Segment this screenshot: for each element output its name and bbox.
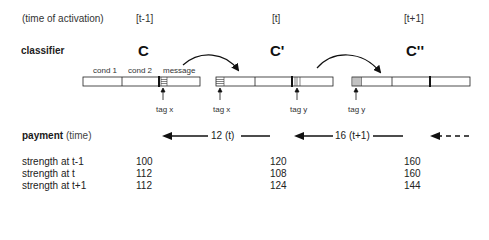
- strength-value: 100: [136, 156, 153, 167]
- payment-arrow-3-dashed: [430, 132, 470, 140]
- strength-row-label: strength at t+1: [22, 180, 86, 191]
- strength-value: 144: [404, 180, 421, 191]
- strength-value: 108: [270, 168, 287, 179]
- strength-row-label: strength at t: [22, 168, 75, 179]
- payment-label: payment (time): [22, 130, 91, 141]
- activation-arrow-c-to-c-prime: [183, 55, 238, 70]
- strength-value: 160: [404, 156, 421, 167]
- payment-amount-2: 16 (t+1): [333, 130, 372, 141]
- tag-label: tag y: [290, 105, 307, 114]
- classifier-bar-c-prime: [216, 76, 333, 87]
- strength-value: 120: [270, 156, 287, 167]
- activation-arrow-c-prime-to-c-double-prime: [317, 55, 380, 72]
- payment-label-suffix: (time): [63, 130, 91, 141]
- payment-label-bold: payment: [22, 130, 63, 141]
- payment-amount-1: 12 (t): [209, 130, 236, 141]
- classifier-bar-c-double-prime: [352, 76, 470, 87]
- strength-value: 160: [404, 168, 421, 179]
- strength-value: 112: [136, 180, 152, 191]
- tag-label: tag x: [213, 105, 230, 114]
- tag-pointer-arrows: [161, 88, 358, 100]
- tag-label: tag y: [348, 105, 365, 114]
- classifier-bar-c: [83, 76, 200, 87]
- tag-label: tag x: [156, 105, 173, 114]
- strength-value: 112: [136, 168, 152, 179]
- strength-value: 124: [270, 180, 287, 191]
- strength-row-label: strength at t-1: [22, 156, 84, 167]
